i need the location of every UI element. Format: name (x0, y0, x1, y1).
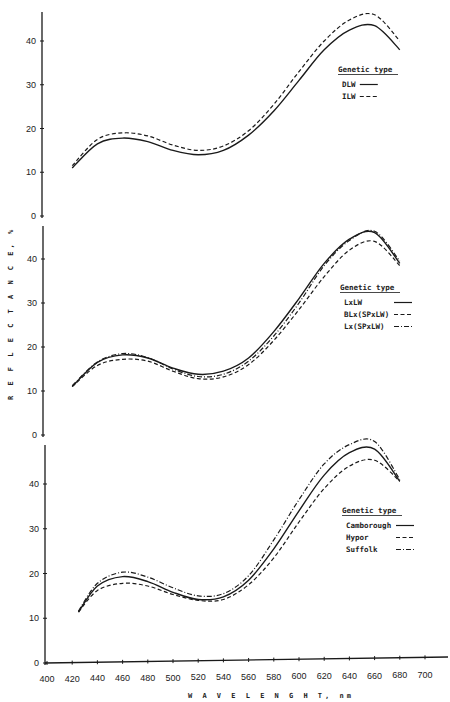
y-tick-label: 20 (26, 124, 36, 134)
legend-label: Hypor (346, 533, 369, 542)
y-tick-label: 40 (26, 36, 36, 46)
legend-label: ILW (342, 92, 356, 101)
y-tick-label: 40 (29, 479, 39, 489)
series-line-lxlw (72, 231, 400, 386)
x-tick-label: 480 (140, 673, 155, 683)
y-axis-title: R E F L E C T A N C E, % (7, 227, 15, 400)
legend: Genetic typeCamboroughHyporSuffolk (342, 506, 414, 554)
legend: Genetic typeLxLWBLx(SPxLW)Lx(SPxLW) (340, 283, 412, 331)
y-tick-label: 40 (27, 254, 37, 264)
panel-top: 010203040Genetic typeDLWILW (26, 12, 400, 221)
x-tick-label: 540 (216, 672, 231, 682)
x-tick-label: 640 (342, 671, 357, 681)
x-tick-label: 660 (367, 671, 382, 681)
legend-label: DLW (342, 80, 356, 89)
x-tick-label: 440 (90, 673, 105, 683)
y-tick-label: 30 (27, 298, 37, 308)
y-tick-label: 30 (29, 524, 39, 534)
y-tick-label: 10 (27, 386, 37, 396)
x-tick-label: 500 (165, 673, 180, 683)
panel-bottom: 0102030404004204404604805005205405605806… (29, 439, 448, 684)
legend-title: Genetic type (340, 283, 395, 292)
x-tick-label: 620 (317, 671, 332, 681)
x-tick-label: 460 (115, 673, 130, 683)
x-tick-label: 680 (392, 670, 407, 680)
legend-label: Suffolk (346, 545, 378, 554)
y-tick-label: 30 (26, 80, 36, 90)
x-tick-label: 420 (65, 674, 80, 684)
y-tick-label: 0 (31, 211, 36, 221)
y-tick-label: 0 (34, 658, 39, 668)
legend: Genetic typeDLWILW (338, 65, 398, 101)
x-tick-label: 580 (266, 672, 281, 682)
x-tick-label: 600 (291, 671, 306, 681)
series-line-ilw (72, 14, 400, 166)
y-tick-label: 20 (27, 342, 37, 352)
reflectance-chart: 010203040Genetic typeDLWILW 010203040Gen… (0, 0, 450, 702)
legend-label: BLx(SPxLW) (344, 310, 389, 319)
x-tick-label: 560 (241, 672, 256, 682)
y-tick-label: 20 (29, 569, 39, 579)
legend-title: Genetic type (338, 65, 393, 74)
x-tick-label: 520 (191, 672, 206, 682)
legend-label: Lx(SPxLW) (344, 322, 385, 331)
x-axis-line (45, 657, 448, 663)
y-tick-label: 10 (29, 613, 39, 623)
series-line-lx-spxlw- (72, 230, 400, 385)
legend-label: Camborough (346, 521, 391, 530)
legend-title: Genetic type (342, 506, 397, 515)
y-tick-label: 10 (26, 167, 36, 177)
x-tick-label: 700 (417, 670, 432, 680)
x-axis-title: W A V E L E N G H T, nm (188, 692, 354, 700)
legend-label: LxLW (344, 298, 363, 307)
panel-middle: 010203040Genetic typeLxLWBLx(SPxLW)Lx(SP… (27, 226, 412, 440)
y-tick-label: 0 (32, 430, 37, 440)
x-tick-label: 400 (39, 674, 54, 684)
